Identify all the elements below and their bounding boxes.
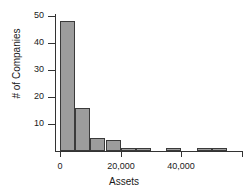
y-tick-label-20: 20 [20, 92, 44, 101]
y-tick-10 [48, 124, 55, 125]
y-tick-label-40: 40 [20, 38, 44, 47]
x-tick-label-20000: 20,000 [107, 161, 135, 171]
x-tick-60000 [242, 151, 243, 157]
x-tick-0 [60, 151, 61, 157]
y-axis-title: # of Companies [11, 4, 22, 124]
histogram-bar [75, 108, 90, 151]
x-tick-label-0: 0 [57, 161, 62, 171]
x-axis-line [55, 151, 243, 152]
histogram-chart: 1020304050 020,00040,000 # of Companies … [0, 0, 248, 196]
y-tick-20 [48, 97, 55, 98]
y-tick-40 [48, 43, 55, 44]
histogram-bar [212, 148, 227, 151]
x-axis-title: Assets [0, 176, 248, 187]
y-axis-line [55, 14, 56, 151]
y-tick-label-10: 10 [20, 119, 44, 128]
y-tick-50 [48, 16, 55, 17]
y-tick-label-30: 30 [20, 65, 44, 74]
histogram-bar [136, 148, 151, 151]
histogram-bar [166, 148, 181, 151]
histogram-bar [90, 138, 105, 152]
x-tick-40000 [181, 151, 182, 157]
histogram-bar [106, 140, 121, 151]
y-tick-30 [48, 70, 55, 71]
y-tick-label-50: 50 [20, 11, 44, 20]
x-tick-label-40000: 40,000 [167, 161, 195, 171]
histogram-bar [60, 21, 75, 151]
histogram-bar [121, 148, 136, 151]
plot-area [60, 14, 242, 151]
x-tick-20000 [121, 151, 122, 157]
histogram-bar [197, 148, 212, 151]
